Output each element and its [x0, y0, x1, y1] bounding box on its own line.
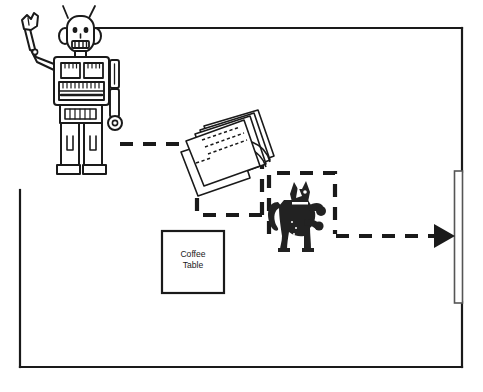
- cat-hind-foot: [278, 248, 290, 252]
- cat-hind-foot-2: [302, 248, 314, 252]
- arrow-head-icon: [434, 224, 455, 248]
- robot-chest-panel-left: [61, 63, 80, 78]
- coffee-table-label-line1: Coffee: [180, 249, 205, 259]
- cat-collar: [292, 202, 308, 205]
- cat[interactable]: [268, 181, 326, 252]
- robot-forearm-left: [25, 30, 30, 50]
- robot[interactable]: [22, 6, 122, 174]
- robot-leg-left: [61, 123, 79, 165]
- robot-elbow-left: [32, 49, 37, 54]
- cat-paw-raised: [316, 206, 326, 216]
- robot-hand-left-claw: [22, 13, 38, 30]
- robot-arm-right-lower: [110, 89, 119, 117]
- robot-chest-panel-right: [84, 63, 103, 78]
- robot-forearm-left-b: [30, 29, 35, 49]
- robot-hand-right-inner: [112, 120, 117, 125]
- door[interactable]: [455, 171, 463, 303]
- scene-canvas: Coffee Table: [0, 0, 483, 392]
- coffee-table-label-line2: Table: [183, 260, 204, 270]
- robot-eye-left: [73, 27, 78, 33]
- coffee-table[interactable]: Coffee Table: [162, 231, 224, 293]
- robot-foot-right: [83, 165, 106, 174]
- cat-eye: [303, 190, 307, 194]
- robot-eye-right: [84, 27, 89, 33]
- robot-antenna-right: [89, 6, 95, 18]
- cat-paw-lower: [314, 221, 323, 230]
- floor-plan-illustration: Coffee Table: [0, 0, 483, 392]
- robot-leg-right: [84, 123, 102, 165]
- robot-foot-left: [57, 165, 80, 174]
- robot-antenna-left: [63, 6, 68, 18]
